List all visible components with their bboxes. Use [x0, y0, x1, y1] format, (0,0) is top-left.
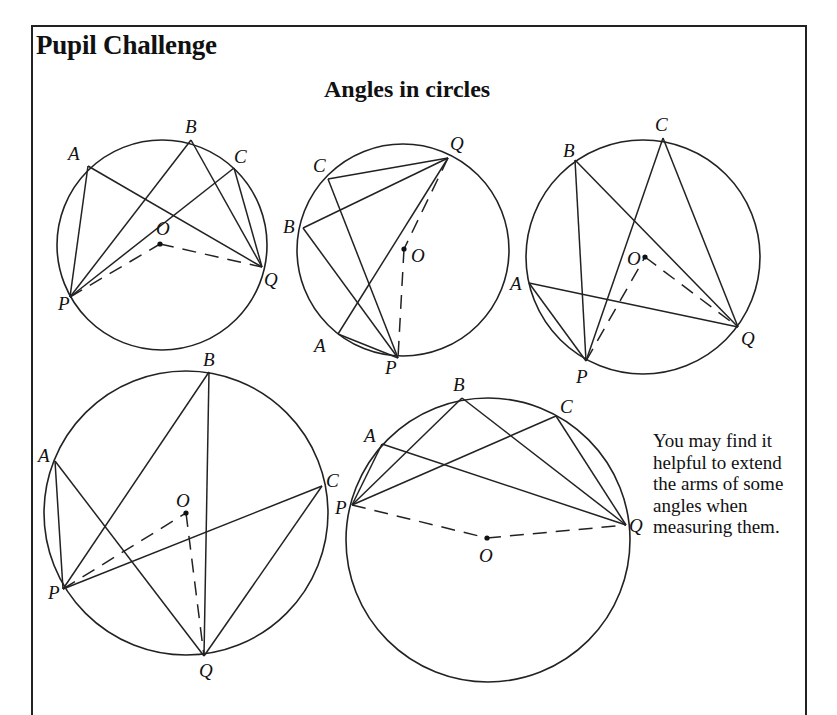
point-label-c: C [234, 146, 247, 167]
point-label-c: C [326, 470, 339, 491]
radius-PO [70, 244, 160, 297]
centre-dot [642, 254, 647, 259]
point-label-a: A [66, 143, 80, 164]
point-label-q: Q [741, 328, 755, 349]
point-label-b: B [563, 140, 575, 161]
point-label-o: O [479, 545, 493, 566]
point-label-b: B [203, 349, 215, 370]
radius-PO [352, 505, 487, 538]
point-label-q: Q [629, 515, 643, 536]
centre-dot [183, 510, 188, 515]
chord-CP [70, 168, 234, 297]
chord-BQ [204, 372, 209, 656]
radius-OQ [160, 244, 262, 267]
chord-BP [352, 398, 462, 505]
chord-CP [63, 486, 322, 589]
point-label-c: C [655, 114, 668, 135]
point-label-q: Q [199, 660, 213, 681]
chord-AP [529, 283, 586, 361]
point-label-p: P [47, 582, 60, 603]
chord-AQ [529, 283, 738, 327]
point-label-o: O [627, 248, 641, 269]
point-label-b: B [185, 116, 197, 137]
chord-CQ [204, 486, 322, 656]
point-label-o: O [411, 245, 425, 266]
radius-OP [398, 249, 404, 358]
point-label-b: B [453, 374, 465, 395]
chord-AQ [88, 166, 262, 267]
hint-note: You may find it helpful to extend the ar… [653, 430, 803, 538]
point-label-o: O [176, 490, 190, 511]
chord-AP [352, 444, 382, 505]
point-label-a: A [362, 425, 376, 446]
point-label-p: P [575, 366, 588, 387]
chord-BP [575, 160, 586, 361]
chord-CQ [556, 416, 626, 525]
point-label-o: O [156, 218, 170, 239]
chord-BP [70, 140, 191, 297]
point-label-p: P [57, 293, 70, 314]
chord-BQ [191, 140, 262, 267]
diagram-1: ABCPQO [57, 116, 278, 350]
centre-dot [157, 241, 162, 246]
chord-AQ [382, 444, 626, 525]
diagram-2: CQBAPO [283, 133, 509, 378]
chord-CQ [234, 168, 262, 267]
radius-OQ [487, 525, 626, 538]
point-label-q: Q [450, 133, 464, 154]
chord-BQ [575, 160, 738, 327]
point-label-a: A [36, 445, 50, 466]
chord-BP [63, 372, 209, 589]
point-label-p: P [334, 497, 347, 518]
diagram-5: ABCPQO [334, 374, 643, 682]
radius-PO [63, 513, 186, 589]
point-label-q: Q [264, 269, 278, 290]
radius-QO [404, 158, 448, 249]
point-label-b: B [283, 216, 295, 237]
chord-CP [586, 138, 663, 361]
chord-CP [328, 179, 398, 358]
radius-PO [586, 257, 645, 361]
point-label-c: C [560, 396, 573, 417]
point-label-a: A [508, 273, 522, 294]
diagram-4: BACPQO [36, 349, 339, 681]
point-label-c: C [313, 155, 326, 176]
chord-BQ [462, 398, 626, 525]
point-label-p: P [384, 357, 397, 378]
diagram-3: BCAPQO [508, 114, 760, 387]
centre-dot [484, 535, 489, 540]
centre-dot [401, 246, 406, 251]
point-label-a: A [312, 335, 326, 356]
